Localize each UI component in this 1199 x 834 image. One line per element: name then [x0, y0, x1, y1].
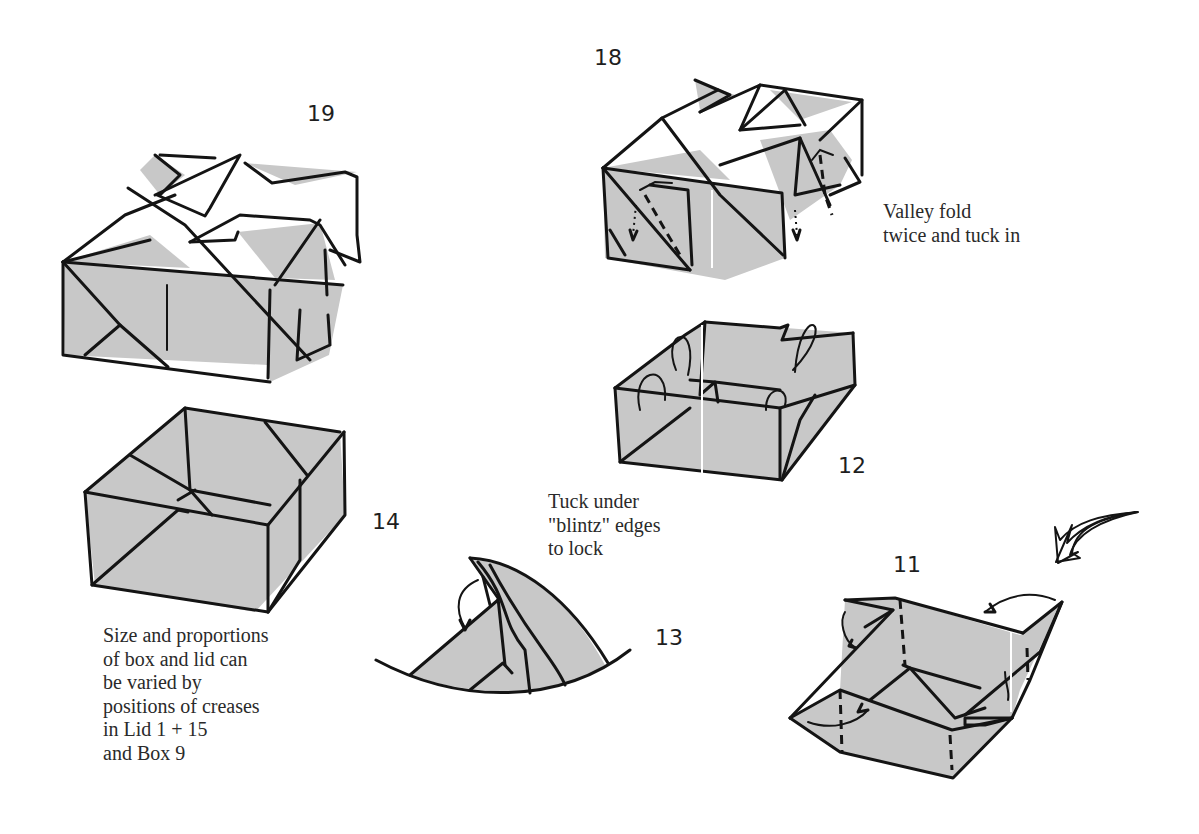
caption-tuck-under: Tuck under "blintz" edges to lock [548, 490, 660, 561]
caption-size-note: Size and proportions of box and lid can … [103, 624, 269, 765]
caption-valley-fold: Valley fold twice and tuck in [883, 200, 1020, 247]
step-number-14: 14 [372, 511, 400, 533]
step-11-box-drawing [790, 595, 1062, 778]
step-number-18: 18 [594, 47, 622, 69]
step-18-lid-drawing [603, 80, 862, 280]
step-13-detail-drawing [376, 558, 630, 693]
step-number-11: 11 [893, 554, 921, 576]
step-14-box-drawing [85, 408, 345, 612]
step-12-box-drawing [615, 322, 855, 480]
step-19-lid-drawing [63, 155, 360, 382]
origami-diagram-page: 19 18 12 14 13 11 Valley fold twice and … [0, 0, 1199, 834]
curved-arrow-icon [1055, 512, 1138, 563]
step-number-19: 19 [307, 103, 335, 125]
step-number-13: 13 [655, 627, 683, 649]
step-number-12: 12 [838, 455, 866, 477]
